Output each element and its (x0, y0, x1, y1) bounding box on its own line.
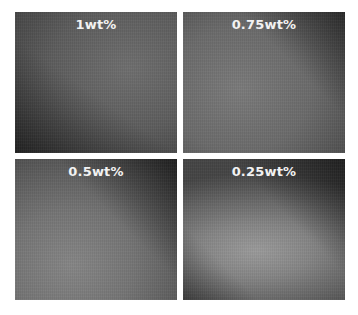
texture-overlay (183, 159, 345, 300)
texture-overlay (15, 12, 177, 153)
panel-label: 0.5wt% (15, 164, 177, 179)
texture-overlay (15, 159, 177, 300)
texture-overlay (183, 12, 345, 153)
panel-label: 1wt% (15, 17, 177, 32)
panel-0-25wt: 0.25wt% (183, 159, 345, 300)
panel-label: 0.25wt% (183, 164, 345, 179)
panel-label: 0.75wt% (183, 17, 345, 32)
panel-0-75wt: 0.75wt% (183, 12, 345, 153)
panel-1wt: 1wt% (15, 12, 177, 153)
panel-0-5wt: 0.5wt% (15, 159, 177, 300)
